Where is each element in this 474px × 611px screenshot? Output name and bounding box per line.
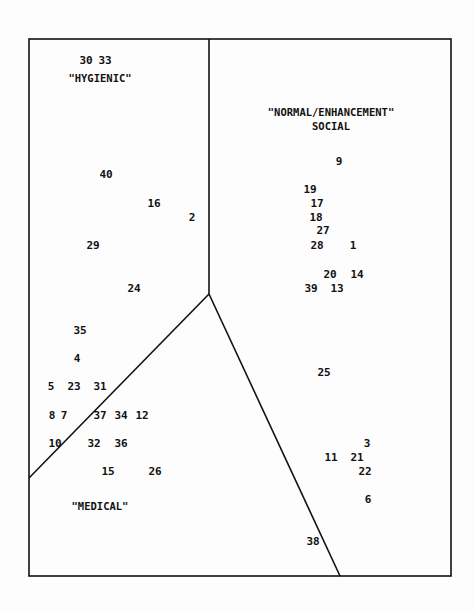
data-point: 13 bbox=[330, 282, 343, 295]
data-point: 14 bbox=[350, 268, 363, 281]
region-label: "MEDICAL" bbox=[72, 499, 129, 513]
data-point: 1 bbox=[350, 239, 357, 252]
data-point: 20 bbox=[323, 268, 336, 281]
data-point: 34 bbox=[114, 409, 127, 422]
data-point: 8 bbox=[49, 409, 56, 422]
region-label: "NORMAL/ENHANCEMENT"SOCIAL bbox=[268, 105, 394, 133]
data-point: 9 bbox=[336, 155, 343, 168]
divider-right-diagonal bbox=[209, 294, 340, 576]
data-point: 7 bbox=[61, 409, 68, 422]
data-point: 5 bbox=[48, 380, 55, 393]
data-point: 11 bbox=[324, 451, 337, 464]
data-point: 38 bbox=[306, 535, 319, 548]
divider-left-diagonal bbox=[29, 294, 209, 478]
data-point: 17 bbox=[310, 197, 323, 210]
data-point: 21 bbox=[350, 451, 363, 464]
data-point: 19 bbox=[303, 183, 316, 196]
data-point: 23 bbox=[67, 380, 80, 393]
data-point: 40 bbox=[99, 168, 112, 181]
data-point: 10 bbox=[48, 437, 61, 450]
data-point: 6 bbox=[365, 493, 372, 506]
data-point: 35 bbox=[73, 324, 86, 337]
region-label: "HYGIENIC" bbox=[68, 71, 131, 85]
data-point: 36 bbox=[114, 437, 127, 450]
data-point: 12 bbox=[135, 409, 148, 422]
data-point: 39 bbox=[304, 282, 317, 295]
data-point: 29 bbox=[86, 239, 99, 252]
diagram-canvas: "HYGIENIC""NORMAL/ENHANCEMENT"SOCIAL"MED… bbox=[0, 0, 474, 611]
data-point: 3 bbox=[364, 437, 371, 450]
data-point: 26 bbox=[148, 465, 161, 478]
data-point: 18 bbox=[309, 211, 322, 224]
data-point: 22 bbox=[358, 465, 371, 478]
data-point: 15 bbox=[101, 465, 114, 478]
data-point: 32 bbox=[87, 437, 100, 450]
data-point: 16 bbox=[147, 197, 160, 210]
data-point: 31 bbox=[93, 380, 106, 393]
data-point: 33 bbox=[98, 54, 111, 67]
data-point: 24 bbox=[127, 282, 140, 295]
data-point: 37 bbox=[93, 409, 106, 422]
data-point: 25 bbox=[317, 366, 330, 379]
data-point: 28 bbox=[310, 239, 323, 252]
data-point: 27 bbox=[316, 224, 329, 237]
data-point: 2 bbox=[189, 211, 196, 224]
data-point: 4 bbox=[74, 352, 81, 365]
diagram-lines bbox=[0, 0, 474, 611]
data-point: 30 bbox=[79, 54, 92, 67]
